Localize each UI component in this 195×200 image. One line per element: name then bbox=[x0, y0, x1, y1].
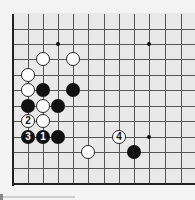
board-left-edge bbox=[12, 14, 14, 186]
black-stone-move-1: 1 bbox=[36, 130, 50, 144]
white-stone bbox=[21, 68, 35, 82]
grid-line-horizontal bbox=[13, 29, 195, 30]
star-point bbox=[147, 135, 151, 139]
grid-line-vertical bbox=[73, 14, 74, 185]
grid-line-vertical bbox=[165, 14, 166, 185]
black-stone bbox=[51, 99, 65, 113]
grid-line-vertical bbox=[104, 14, 105, 185]
white-stone bbox=[81, 145, 95, 159]
black-stone bbox=[51, 130, 65, 144]
grid-line-vertical bbox=[88, 14, 89, 185]
grid-line-horizontal bbox=[13, 44, 195, 45]
move-number: 3 bbox=[25, 132, 31, 142]
go-board: 2314 bbox=[0, 0, 195, 200]
white-stone-move-4: 4 bbox=[112, 130, 126, 144]
grid-line-vertical bbox=[149, 14, 150, 185]
grid-line-vertical bbox=[119, 14, 120, 185]
grid-line-horizontal bbox=[13, 152, 195, 153]
white-stone-move-2: 2 bbox=[21, 114, 35, 128]
black-stone bbox=[127, 145, 141, 159]
board-bottom-edge bbox=[12, 183, 195, 185]
star-point bbox=[147, 42, 151, 46]
grid-line-vertical bbox=[134, 14, 135, 185]
black-stone-move-3: 3 bbox=[21, 130, 35, 144]
move-number: 4 bbox=[116, 132, 122, 142]
white-stone bbox=[21, 83, 35, 97]
grid-line-vertical bbox=[181, 14, 182, 185]
grid-line-horizontal bbox=[13, 168, 195, 169]
black-stone bbox=[36, 83, 50, 97]
black-stone bbox=[66, 83, 80, 97]
white-stone bbox=[36, 99, 50, 113]
white-stone bbox=[36, 52, 50, 66]
white-stone bbox=[36, 114, 50, 128]
scan-artifact-line bbox=[0, 196, 75, 198]
white-stone bbox=[66, 52, 80, 66]
move-number: 2 bbox=[25, 116, 31, 126]
black-stone bbox=[21, 99, 35, 113]
grid-line-horizontal bbox=[13, 75, 195, 76]
scan-artifact-mark bbox=[0, 194, 3, 200]
star-point bbox=[56, 42, 60, 46]
move-number: 1 bbox=[40, 132, 46, 142]
